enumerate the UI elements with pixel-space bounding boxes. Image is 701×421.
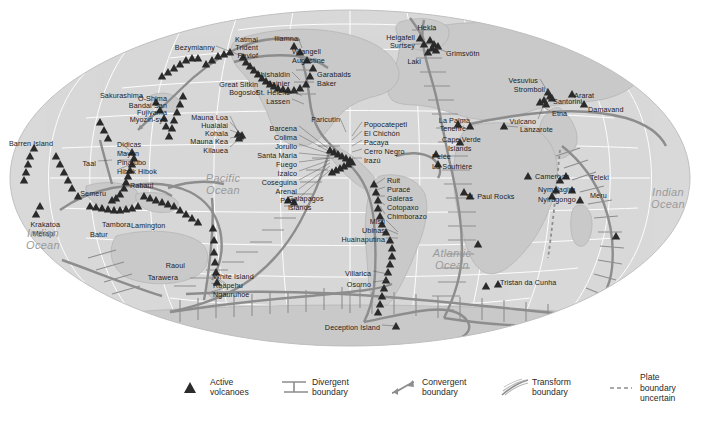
volcano-label: Colima	[274, 134, 297, 142]
volcano-label: Nymalagira	[538, 186, 575, 194]
volcano-label: Islands	[448, 145, 471, 153]
volcano-label: Coseguina	[262, 179, 297, 187]
volcano-label: Tambora	[102, 221, 131, 229]
volcano-label: Islands	[288, 204, 311, 212]
volcano-label: Pelée	[432, 153, 451, 161]
ocean-label: Indian Ocean	[26, 227, 60, 251]
volcano-label: Popocatepetl	[364, 121, 407, 129]
volcano-label: Wrangell	[292, 48, 321, 56]
volcano-label: Pinatubo	[117, 159, 146, 167]
volcano-label: Semeru	[80, 190, 106, 198]
volcano-label: Sakurashima	[100, 92, 143, 100]
volcano-label: Garabalds	[317, 71, 351, 79]
volcano-label: Deception Island	[325, 324, 380, 332]
volcano-label: Shishaldin	[256, 71, 290, 79]
volcano-label: Mayon	[117, 150, 139, 158]
volcano-label: Barcena	[270, 125, 297, 133]
map-legend: Active volcanoes Divergent boundary Conv…	[0, 360, 701, 421]
volcano-label: Hibok Hibok	[117, 168, 157, 176]
volcano-label: Pacaya	[364, 139, 389, 147]
volcano-label: Lanzarote	[520, 126, 553, 134]
volcano-label: Augustine	[292, 57, 325, 65]
legend-label-plate-boundary-uncertain: Plate boundary uncertain	[640, 372, 676, 404]
volcano-label: Rabaul	[130, 182, 153, 190]
volcano-label: Myozin-syo	[130, 116, 167, 124]
volcano-label: Kilauea	[203, 147, 228, 155]
volcano-label: Fuego	[276, 161, 297, 169]
volcano-label: Santa Maria	[257, 152, 297, 160]
volcano-label: Tenerife	[440, 125, 466, 133]
volcano-label: Damavand	[588, 106, 624, 114]
volcano-label: Jorullo	[275, 143, 297, 151]
map-canvas: BezymiannySakurashimaO-ShimaBandai SanFu…	[0, 0, 701, 360]
volcano-triangle-icon	[178, 376, 204, 398]
volcano-label: Osorno	[347, 281, 371, 289]
ocean-label: Atlantic Ocean	[433, 247, 471, 271]
volcano-label: Cameroon	[535, 173, 569, 181]
volcano-label: Pavlof	[237, 52, 258, 60]
volcano-label: Raoul	[166, 262, 185, 270]
volcano-label: Lamington	[131, 222, 165, 230]
volcano-label: Didicas	[117, 141, 141, 149]
volcano-label: Misti	[370, 218, 385, 226]
volcano-label: Ubinas	[362, 227, 385, 235]
legend-label-divergent-boundary: Divergent boundary	[312, 377, 349, 398]
volcano-label: Izalco	[278, 170, 297, 178]
volcano-label: St. Paul Rocks	[466, 193, 515, 201]
volcano-label: Puracé	[387, 186, 410, 194]
volcano-label: Hekla	[418, 24, 437, 32]
volcano-label: Galeras	[387, 195, 413, 203]
volcano-label: Iliamna	[274, 35, 298, 43]
volcano-label: Tarawera	[148, 274, 178, 282]
volcano-label: Cerro Negro	[364, 148, 405, 156]
volcano-label: Huainaputina	[341, 236, 385, 244]
volcano-label: Ruapehu	[213, 282, 243, 290]
convergent-barbs-icon	[390, 376, 416, 398]
volcano-label: Taal	[82, 160, 96, 168]
volcano-label: Galapagos	[288, 195, 324, 203]
transform-hatch-icon	[500, 376, 526, 398]
volcano-label: La Soufrière	[432, 163, 472, 171]
volcano-label: Ngauruhoe	[213, 291, 249, 299]
ocean-label: Indian Ocean	[651, 186, 685, 210]
volcano-label: Laki	[407, 58, 421, 66]
volcano-label: Ararat	[574, 92, 594, 100]
divergent-lines-icon	[280, 376, 306, 398]
volcano-label: Mauna Kea	[190, 138, 228, 146]
volcano-label: Bezymianny	[175, 44, 215, 52]
volcano-label: Batur	[90, 231, 108, 239]
world-volcano-map-figure: BezymiannySakurashimaO-ShimaBandai SanFu…	[0, 0, 701, 421]
volcano-label: Tristan da Cunha	[500, 279, 556, 287]
legend-item-convergent-boundary: Convergent boundary	[390, 376, 466, 398]
volcano-label: El Chichón	[364, 130, 400, 138]
volcano-label: Etna	[552, 110, 567, 118]
volcano-label: Cotopaxo	[387, 204, 419, 212]
volcano-label: Vesuvius	[508, 77, 538, 85]
volcano-label: Paricutin	[311, 116, 340, 124]
map-labels: BezymiannySakurashimaO-ShimaBandai SanFu…	[0, 0, 701, 360]
volcano-label: Grimsvötn	[446, 50, 480, 58]
volcano-label: White Island	[213, 273, 254, 281]
volcano-label: St. Helens	[256, 89, 290, 97]
dashed-line-icon	[608, 377, 634, 399]
ocean-label: Pacific Ocean	[206, 172, 241, 196]
volcano-label: Meru	[590, 192, 607, 200]
legend-item-divergent-boundary: Divergent boundary	[280, 376, 349, 398]
volcano-label: Bogoslof	[229, 89, 258, 97]
legend-item-plate-boundary-uncertain: Plate boundary uncertain	[608, 372, 676, 404]
volcano-label: Stromboli	[514, 86, 545, 94]
volcano-label: Cape Verde	[442, 136, 481, 144]
volcano-label: Teleki	[590, 174, 609, 182]
volcano-label: Barren Island	[9, 140, 53, 148]
volcano-label: Lassen	[266, 98, 290, 106]
legend-label-transform-boundary: Transform boundary	[532, 377, 571, 398]
legend-item-transform-boundary: Transform boundary	[500, 376, 571, 398]
volcano-label: Nyiragongo	[538, 196, 576, 204]
volcano-label: Chimborazo	[387, 213, 427, 221]
volcano-label: Irazú	[364, 157, 380, 165]
volcano-label: Rainier	[267, 80, 290, 88]
volcano-label: Ruit	[387, 177, 400, 185]
volcano-label: Villarica	[345, 270, 371, 278]
legend-item-active-volcanoes: Active volcanoes	[178, 376, 249, 398]
volcano-label: Surtsey	[390, 42, 415, 50]
